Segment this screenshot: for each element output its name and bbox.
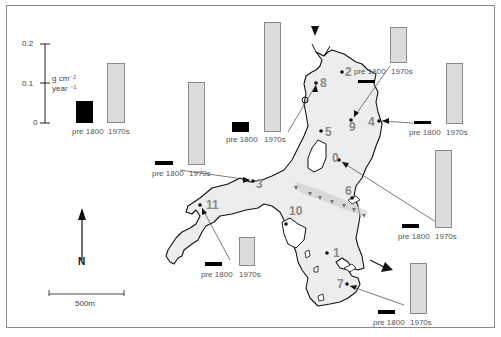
scale-label: 500m xyxy=(75,299,95,308)
site-11-label-pre1800: pre 1800 xyxy=(201,270,233,279)
site-7-label-1970s: 1970s xyxy=(410,318,432,327)
site-label-1: 1 xyxy=(333,247,340,259)
site-0-label-1970s: 1970s xyxy=(435,232,457,241)
site-8-bar-1970s xyxy=(264,22,281,132)
site-label-7: 7 xyxy=(337,278,344,290)
site-label-3: 3 xyxy=(256,178,263,190)
legend-unit-line2: year ⁻¹ xyxy=(52,84,76,93)
legend-axis xyxy=(40,44,50,123)
legend-tick-0.1: 0.1 xyxy=(22,79,33,88)
legend-label-1970s: 1970s xyxy=(108,127,130,136)
site-9-bar-1970s xyxy=(390,27,407,63)
site-3-bar-pre1800 xyxy=(155,161,173,165)
site-9-label-1970s: 1970s xyxy=(391,67,413,76)
legend-label-pre1800: pre 1800 xyxy=(72,127,104,136)
site-label-6: 6 xyxy=(345,185,352,197)
site-8-bar-pre1800 xyxy=(232,122,249,132)
north-label: N xyxy=(78,256,85,267)
site-11-bar-pre1800 xyxy=(205,262,222,266)
site-4-label-pre1800: pre 1800 xyxy=(409,128,441,137)
scale-bar xyxy=(49,290,124,296)
site-4-bar-1970s xyxy=(446,63,463,124)
site-7-bar-pre1800 xyxy=(378,310,395,314)
site-3-label-1970s: 1970s xyxy=(189,169,211,178)
site-label-10: 10 xyxy=(289,205,302,217)
legend-bar-pre1800 xyxy=(76,101,93,123)
site-0-label-pre1800: pre 1800 xyxy=(398,232,430,241)
site-label-11: 11 xyxy=(206,199,219,211)
site-3-bar-1970s xyxy=(188,82,205,165)
site-4-bar-pre1800 xyxy=(414,121,431,124)
site-0-bar-pre1800 xyxy=(402,224,419,228)
site-8-label-1970s: 1970s xyxy=(264,135,286,144)
legend-unit-line1: g cm⁻² xyxy=(52,74,76,83)
legend-tick-0: 0 xyxy=(33,118,37,127)
site-11-label-1970s: 1970s xyxy=(239,270,261,279)
small-island xyxy=(305,250,310,258)
legend-bar-1970s xyxy=(107,63,125,123)
site-label-5: 5 xyxy=(325,126,332,138)
site-7-label-pre1800: pre 1800 xyxy=(373,318,405,327)
site-3-label-pre1800: pre 1800 xyxy=(152,169,184,178)
site-label-8: 8 xyxy=(320,77,327,89)
site-label-0: 0 xyxy=(332,152,339,164)
site-label-2: 2 xyxy=(345,66,352,78)
legend-tick-0.2: 0.2 xyxy=(22,39,33,48)
site-9-label-pre1800: pre 1800 xyxy=(354,67,386,76)
site-11-bar-1970s xyxy=(239,237,255,266)
site-8-label-pre1800: pre 1800 xyxy=(226,135,258,144)
site-0-bar-1970s xyxy=(435,150,452,228)
site-label-4: 4 xyxy=(368,116,375,128)
site-4-label-1970s: 1970s xyxy=(446,128,468,137)
site-9-bar-pre1800 xyxy=(358,80,375,83)
site-label-9: 9 xyxy=(349,121,356,133)
site-7-bar-1970s xyxy=(410,263,427,314)
inflow-arrow-icon xyxy=(311,26,319,36)
